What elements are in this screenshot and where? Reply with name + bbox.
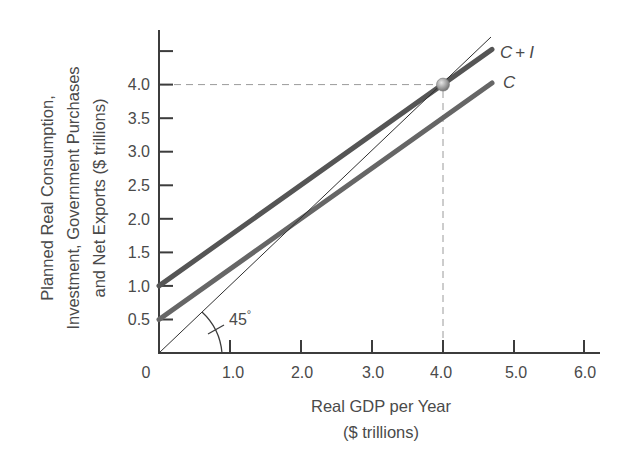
y-tick-label: 0.5 bbox=[128, 311, 150, 328]
x-axis-title-line-1: Real GDP per Year bbox=[311, 397, 452, 415]
series-c-line bbox=[159, 83, 492, 320]
y-tick-label: 4.0 bbox=[128, 76, 150, 93]
x-axis-title: Real GDP per Year ($ trillions) bbox=[311, 397, 452, 441]
x-tick-labels: 0 1.0 2.0 3.0 4.0 5.0 6.0 bbox=[142, 364, 597, 381]
y-tick-label: 3.5 bbox=[128, 110, 150, 127]
x-tick-label: 3.0 bbox=[362, 364, 384, 381]
x-tick-label: 2.0 bbox=[291, 364, 313, 381]
angle-label: 45° bbox=[229, 308, 251, 328]
x-tick-label: 4.0 bbox=[430, 364, 452, 381]
series-label-c-plus-i: C+I bbox=[500, 43, 534, 62]
y-axis-title: Planned Real Consumption, Investment, Go… bbox=[38, 66, 108, 329]
angle-arc bbox=[202, 312, 222, 353]
series-labels: C+I C bbox=[500, 43, 534, 92]
y-tick-label: 1.5 bbox=[128, 244, 150, 261]
y-tick-label: 2.5 bbox=[128, 177, 150, 194]
x-axis-title-line-2: ($ trillions) bbox=[343, 423, 419, 441]
origin-label: 0 bbox=[142, 364, 151, 381]
chart-canvas: Planned Real Consumption, Investment, Go… bbox=[0, 0, 629, 460]
x-tick-label: 1.0 bbox=[222, 364, 244, 381]
series-label-c: C bbox=[503, 73, 516, 92]
angle-annotation: 45° bbox=[202, 308, 251, 353]
equilibrium-point bbox=[437, 78, 450, 91]
axes bbox=[158, 30, 600, 354]
y-tick-label: 1.0 bbox=[128, 278, 150, 295]
y-axis-title-line-2: Investment, Government Purchases bbox=[64, 66, 82, 329]
y-axis-title-line-1: Planned Real Consumption, bbox=[38, 95, 56, 300]
y-tick-label: 2.0 bbox=[128, 211, 150, 228]
x-ticks bbox=[230, 340, 584, 353]
y-axis-title-line-3: and Net Exports ($ trillions) bbox=[90, 99, 108, 298]
y-tick-labels: 0.5 1.0 1.5 2.0 2.5 3.0 3.5 4.0 bbox=[128, 76, 150, 328]
y-tick-label: 3.0 bbox=[128, 143, 150, 160]
x-tick-label: 6.0 bbox=[574, 364, 596, 381]
angle-arc-tick bbox=[208, 325, 224, 334]
x-tick-label: 5.0 bbox=[505, 364, 527, 381]
